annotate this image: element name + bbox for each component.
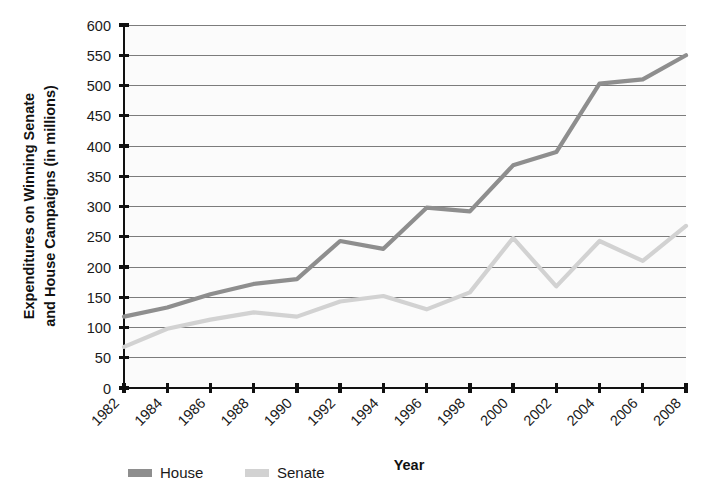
x-tick-label: 1986 [174,395,208,429]
y-tick-label: 250 [87,229,111,245]
y-tick-label: 600 [87,18,111,34]
chart-legend: HouseSenate [128,464,325,481]
y-tick-label: 200 [87,260,111,276]
x-tick-label: 1994 [347,395,381,429]
x-tick-label: 2002 [520,395,554,429]
x-tick-label: 1996 [391,395,425,429]
x-tick-label: 2008 [650,395,684,429]
x-tick-label: 1988 [218,395,252,429]
legend-swatch-house [128,469,152,477]
legend-swatch-senate [245,469,269,477]
x-tick-label: 2006 [607,395,641,429]
y-tick-label: 50 [95,350,111,366]
x-tick-label: 1982 [88,395,122,429]
x-tick-label: 1984 [131,395,165,429]
legend-label-senate: Senate [277,464,325,481]
x-axis-tick-labels: 1982198419861988199019921994199619982000… [88,395,684,429]
y-tick-label: 0 [103,381,111,397]
chart-figure: 050100150200250300350400450500550600 198… [0,0,716,498]
y-axis-title: Expenditures on Winning Senate and House… [21,85,58,327]
x-tick-label: 1990 [261,395,295,429]
y-axis-tick-labels: 050100150200250300350400450500550600 [87,18,111,397]
y-tick-label: 350 [87,169,111,185]
y-tick-label: 550 [87,48,111,64]
legend-label-house: House [160,464,203,481]
y-axis-title-line2: and House Campaigns (in millions) [42,85,58,327]
y-tick-label: 500 [87,78,111,94]
x-axis-title: Year [394,457,425,473]
x-tick-label: 1992 [304,395,338,429]
y-axis-title-line1: Expenditures on Winning Senate [21,93,37,319]
x-tick-label: 2000 [477,395,511,429]
y-tick-label: 400 [87,139,111,155]
line-chart: 050100150200250300350400450500550600 198… [0,0,716,498]
y-tick-label: 450 [87,108,111,124]
y-tick-label: 150 [87,290,111,306]
y-tick-label: 100 [87,320,111,336]
y-tick-label: 300 [87,199,111,215]
x-tick-label: 1998 [434,395,468,429]
x-tick-label: 2004 [564,395,598,429]
